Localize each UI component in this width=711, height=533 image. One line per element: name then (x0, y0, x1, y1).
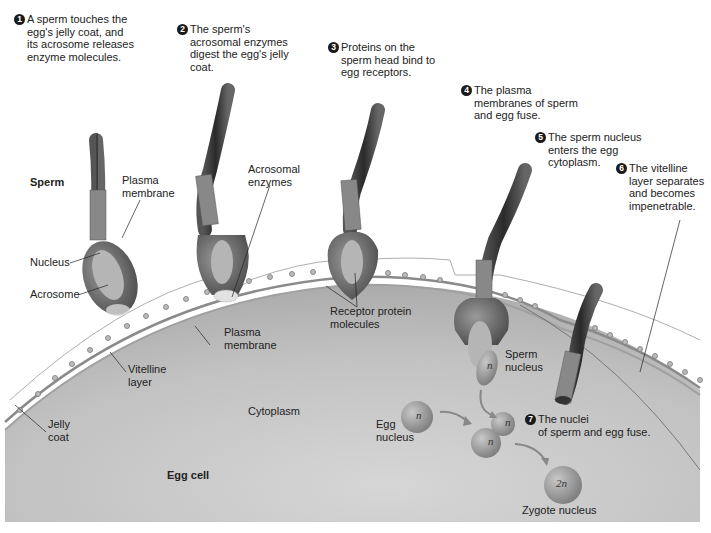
sperm-1 (73, 140, 148, 323)
label-receptor-protein: Receptor protein molecules (330, 305, 411, 330)
ploidy-egg: n (416, 409, 422, 421)
sperm-3 (328, 110, 378, 300)
step-4: 4The plasma membranes of sperm and egg f… (461, 84, 578, 122)
label-jelly-coat: Jelly coat (48, 418, 70, 443)
label-sperm: Sperm (30, 176, 64, 189)
step-7: 7The nuclei of sperm and egg fuse. (525, 413, 651, 438)
step-1-number: 1 (14, 14, 25, 25)
ploidy-zygote: 2n (556, 477, 567, 489)
step-7-number: 7 (525, 414, 536, 425)
step-2-number: 2 (177, 24, 188, 35)
label-cytoplasm: Cytoplasm (248, 405, 300, 418)
ploidy-fused-1: n (505, 416, 511, 428)
label-egg-nucleus: Egg nucleus (376, 418, 414, 443)
ploidy-fused-2: n (488, 435, 494, 447)
step-6: 6The vitelline layer separates and becom… (616, 162, 704, 212)
step-5-number: 5 (535, 132, 546, 143)
step-4-number: 4 (461, 85, 472, 96)
label-plasma-membrane-egg: Plasma membrane (224, 326, 277, 351)
step-6-number: 6 (616, 163, 627, 174)
step-3-number: 3 (328, 42, 339, 53)
label-acrosome: Acrosome (30, 288, 80, 301)
ploidy-sperm: n (487, 359, 493, 371)
label-plasma-membrane-sperm: Plasma membrane (122, 174, 175, 199)
label-nucleus: Nucleus (30, 256, 70, 269)
label-sperm-nucleus: Sperm nucleus (505, 348, 543, 373)
label-zygote-nucleus: Zygote nucleus (522, 504, 597, 517)
step-1: 1A sperm touches the egg's jelly coat, a… (14, 13, 134, 63)
label-egg-cell: Egg cell (167, 469, 209, 482)
fertilization-diagram (0, 0, 711, 533)
step-3: 3Proteins on the sperm head bind to egg … (328, 41, 435, 79)
step-2: 2The sperm's acrosomal enzymes digest th… (177, 23, 289, 73)
label-vitelline-layer: Vitelline layer (128, 363, 166, 388)
label-acrosomal-enzymes: Acrosomal enzymes (248, 163, 300, 188)
